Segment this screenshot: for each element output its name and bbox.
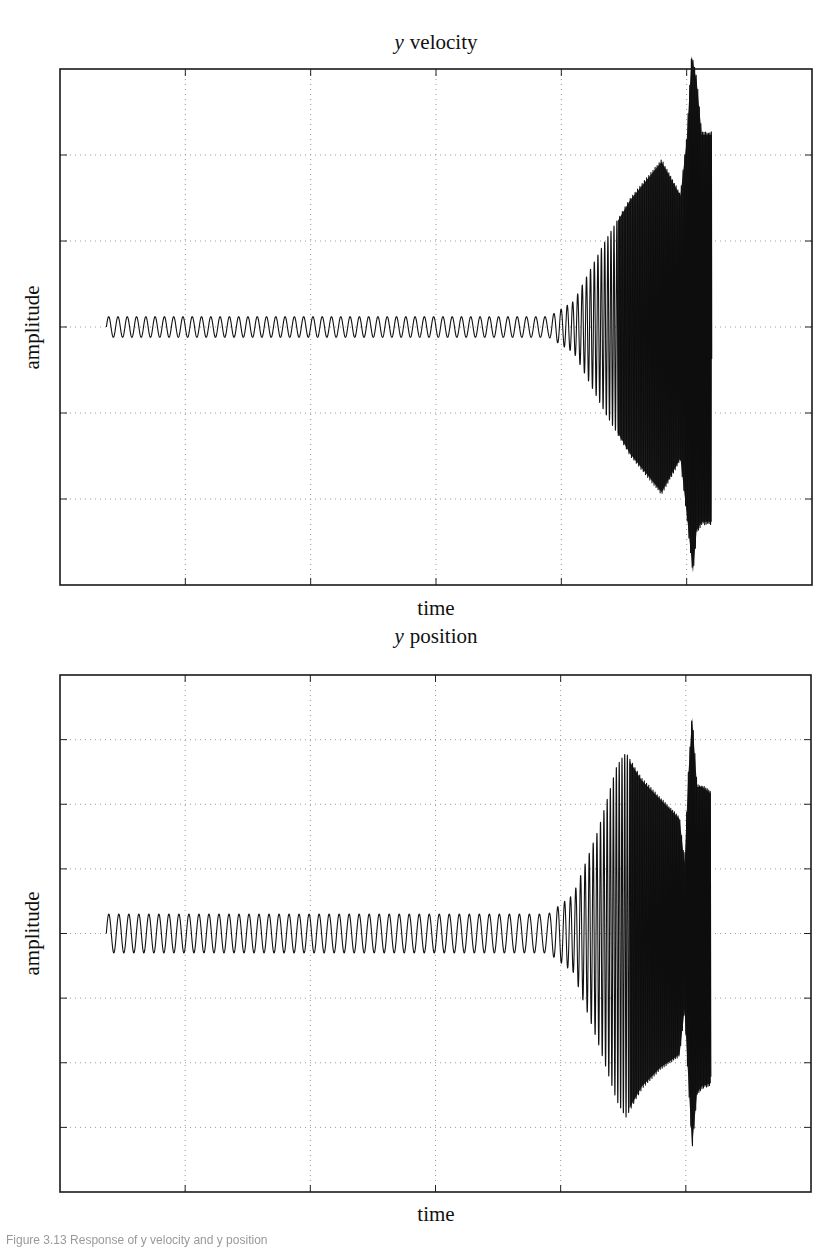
top-chart-velocity <box>60 56 812 585</box>
bottom-chart-position <box>60 675 811 1192</box>
signal-dense-band <box>618 56 712 573</box>
figure-caption: Figure 3.13 Response of y velocity and y… <box>6 1233 267 1247</box>
signal-line <box>106 721 711 1146</box>
signal-dense-band <box>630 718 711 1146</box>
